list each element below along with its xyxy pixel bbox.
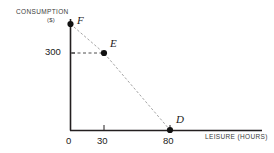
x-tick-label-80: 80 [163, 136, 174, 146]
x-tick-label-30: 30 [97, 136, 108, 146]
point-label-e: E [110, 38, 117, 49]
budget-constraint-line [71, 24, 171, 130]
x-tick-label-0: 0 [66, 136, 71, 146]
data-point-D [167, 127, 173, 133]
y-axis-title: CONSUMPTION [16, 9, 69, 16]
budget-constraint-figure: CONSUMPTION ($) LEISURE (HOURS) 300 0 30… [0, 0, 274, 153]
y-tick-label-300: 300 [45, 47, 61, 57]
graph-canvas [0, 0, 274, 153]
data-point-F [67, 21, 73, 27]
x-axis-title: LEISURE (HOURS) [205, 134, 268, 141]
y-axis-unit-label: ($) [47, 17, 55, 23]
point-label-d: D [176, 114, 184, 125]
data-point-E [101, 50, 107, 56]
point-label-f: F [77, 15, 84, 26]
